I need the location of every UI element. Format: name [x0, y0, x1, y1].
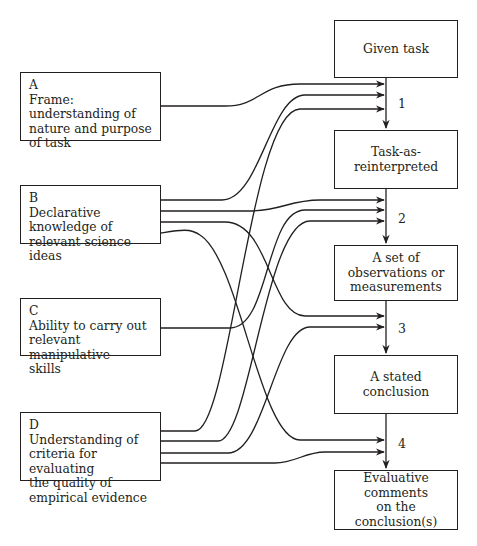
- box-A-frame: AFrame: understanding of nature and purp…: [20, 72, 161, 141]
- given-task-label: Given task: [363, 42, 429, 57]
- box-B-line: relevant science ideas: [29, 235, 154, 264]
- box-D-letter: D: [29, 418, 146, 433]
- stage-label-4: 4: [398, 436, 406, 451]
- box-B-line: knowledge of: [29, 220, 154, 235]
- box-A-letter: A: [29, 78, 146, 93]
- box-D-line: the quality of: [29, 476, 154, 491]
- box-B-letter: B: [29, 191, 146, 206]
- box-D-line: criteria for evaluating: [29, 447, 154, 476]
- box-A-line: nature and purpose: [29, 122, 154, 137]
- task-reinterpreted-label: Task-as-reinterpreted: [339, 145, 453, 174]
- box-C-letter: C: [29, 304, 146, 319]
- box-observations: A set of observations or measurements: [334, 245, 458, 301]
- box-D-line: Understanding of: [29, 433, 138, 447]
- observations-line: measurements: [348, 280, 445, 295]
- evaluative-line: on the: [339, 500, 453, 515]
- box-evaluative-comments: Evaluative comments on the conclusion(s): [334, 470, 458, 530]
- box-D-line: empirical evidence: [29, 491, 154, 506]
- box-stated-conclusion: A stated conclusion: [334, 355, 458, 414]
- box-A-line: understanding of: [29, 107, 154, 122]
- observations-line: A set of: [348, 251, 445, 266]
- stage-label-1: 1: [398, 96, 406, 111]
- box-C-line: Ability to carry out: [29, 319, 147, 333]
- stated-conclusion-label: A stated conclusion: [339, 370, 453, 399]
- box-C-line: relevant manipulative: [29, 333, 154, 362]
- box-A-line: of task: [29, 136, 154, 151]
- stage-label-2: 2: [398, 211, 406, 226]
- box-A-line: Frame:: [29, 93, 74, 107]
- box-D-evidence-criteria: DUnderstanding of criteria for evaluatin…: [20, 412, 161, 481]
- box-B-line: Declarative: [29, 206, 101, 220]
- evaluative-line: conclusion(s): [339, 515, 453, 530]
- stage-label-3: 3: [398, 321, 406, 336]
- box-C-line: skills: [29, 362, 154, 377]
- box-B-declarative-knowledge: BDeclarative knowledge of relevant scien…: [20, 185, 161, 244]
- box-task-as-reinterpreted: Task-as-reinterpreted: [334, 130, 458, 189]
- observations-line: observations or: [348, 266, 445, 281]
- box-given-task: Given task: [334, 20, 458, 78]
- evaluative-line: Evaluative comments: [339, 471, 453, 500]
- box-C-manipulative-skills: CAbility to carry out relevant manipulat…: [20, 298, 161, 356]
